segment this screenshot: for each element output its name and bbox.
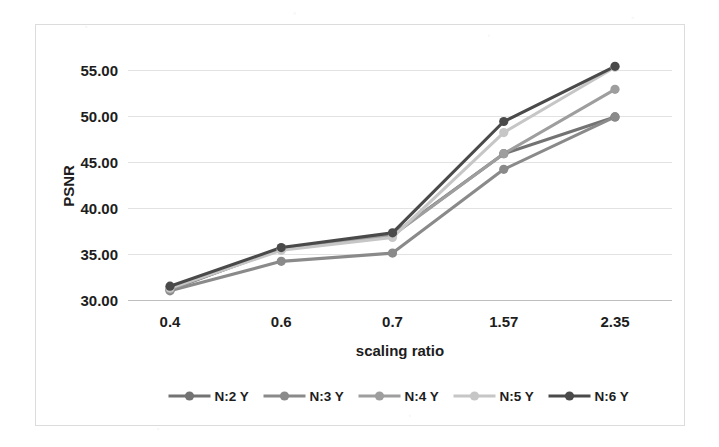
data-point-marker	[499, 128, 508, 137]
psnr-line-chart: 30.0035.0040.0045.0050.0055.00 0.40.60.7…	[0, 0, 719, 447]
data-point-marker	[499, 117, 508, 126]
legend-item-label: N:3 Y	[310, 389, 344, 404]
y-tick-label: 55.00	[80, 62, 118, 79]
series-line	[170, 89, 615, 289]
x-tick-label: 1.57	[489, 313, 518, 330]
legend-swatch-marker	[565, 391, 574, 400]
data-point-marker	[610, 112, 619, 121]
data-point-marker	[610, 85, 619, 94]
legend-swatch-marker	[280, 391, 289, 400]
legend-swatch-marker	[185, 391, 194, 400]
x-tick-label: 0.6	[271, 313, 292, 330]
x-axis-title: scaling ratio	[356, 342, 444, 359]
x-tick-label: 0.7	[382, 313, 403, 330]
y-tick-label: 45.00	[80, 154, 118, 171]
legend-swatch-marker	[375, 391, 384, 400]
y-tick-label: 50.00	[80, 108, 118, 125]
data-point-marker	[499, 165, 508, 174]
x-axis-tick-labels: 0.40.60.71.572.35	[160, 313, 630, 330]
y-tick-label: 35.00	[80, 246, 118, 263]
data-point-marker	[388, 248, 397, 257]
x-tick-label: 0.4	[160, 313, 182, 330]
data-point-marker	[165, 282, 174, 291]
legend-item-label: N:2 Y	[215, 389, 249, 404]
x-tick-label: 2.35	[600, 313, 629, 330]
data-point-marker	[277, 243, 286, 252]
chart-root: 30.0035.0040.0045.0050.0055.00 0.40.60.7…	[0, 0, 719, 447]
legend-swatch-marker	[470, 391, 479, 400]
data-point-marker	[499, 149, 508, 158]
y-axis-tick-labels: 30.0035.0040.0045.0050.0055.00	[80, 62, 118, 309]
legend-item-label: N:5 Y	[500, 389, 534, 404]
chart-legend: N:2 YN:3 YN:4 YN:5 YN:6 Y	[169, 389, 629, 404]
data-point-marker	[277, 257, 286, 266]
y-tick-label: 30.00	[80, 292, 118, 309]
legend-item-label: N:4 Y	[405, 389, 439, 404]
y-axis-title: PSNR	[60, 165, 77, 207]
data-point-marker	[610, 62, 619, 71]
legend-item-label: N:6 Y	[595, 389, 629, 404]
y-tick-label: 40.00	[80, 200, 118, 217]
data-point-marker	[388, 228, 397, 237]
